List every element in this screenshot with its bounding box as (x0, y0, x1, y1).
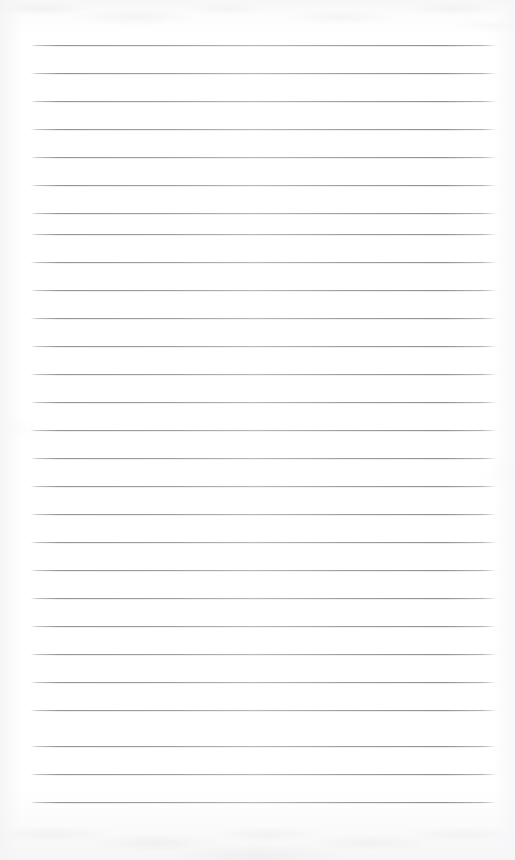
rule-line (30, 346, 497, 347)
rule-line (30, 157, 497, 158)
rule-line (30, 45, 497, 46)
rule-line (30, 626, 497, 627)
rule-line (30, 290, 497, 291)
rule-line (30, 213, 497, 214)
rule-line (30, 682, 497, 683)
rule-line (30, 318, 497, 319)
rule-line (30, 514, 497, 515)
ruled-lines-group (0, 0, 515, 860)
rule-line (30, 129, 497, 130)
rule-line (30, 654, 497, 655)
rule-line (30, 746, 497, 747)
scanned-page (0, 0, 515, 860)
rule-line (30, 185, 497, 186)
rule-line (30, 570, 497, 571)
rule-line (30, 458, 497, 459)
rule-line (30, 402, 497, 403)
rule-line (30, 73, 497, 74)
rule-line (30, 262, 497, 263)
rule-line (30, 802, 497, 803)
rule-line (30, 486, 497, 487)
rule-line (30, 101, 497, 102)
rule-line (30, 374, 497, 375)
rule-line (30, 430, 497, 431)
rule-line (30, 542, 497, 543)
rule-line (30, 710, 497, 711)
rule-line (30, 774, 497, 775)
rule-line (30, 234, 497, 235)
rule-line (30, 598, 497, 599)
